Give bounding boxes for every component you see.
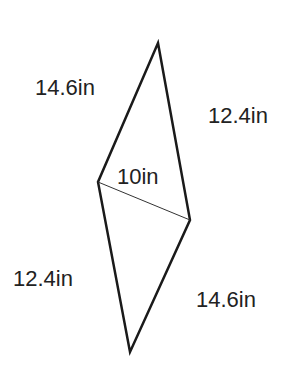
label-top-left-side: 14.6in xyxy=(35,77,95,99)
label-bottom-right-side: 14.6in xyxy=(196,289,256,311)
label-top-right-side: 12.4in xyxy=(208,105,268,127)
label-diagonal: 10in xyxy=(117,166,159,188)
quadrilateral-outline xyxy=(98,43,190,352)
label-bottom-left-side: 12.4in xyxy=(13,268,73,290)
